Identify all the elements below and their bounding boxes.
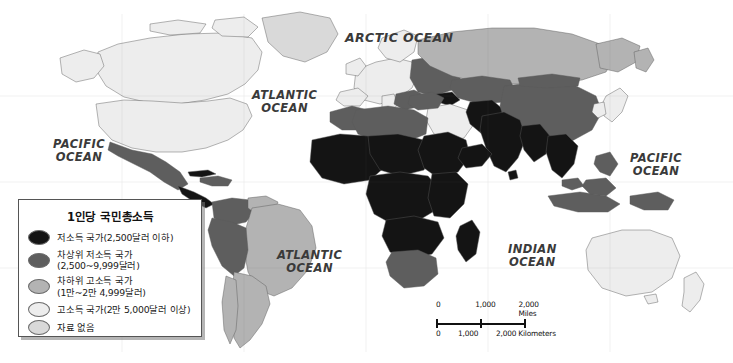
map-legend: 1인당 국민총소득 저소득 국가(2,500달러 이하) 차상위 저소득 국가 … [18, 199, 202, 337]
scalebar-km-zero: 0 [436, 329, 458, 338]
world-income-map: .lnd{stroke:#5a5a5a;stroke-width:.45;} .… [0, 0, 733, 363]
legend-swatch-low-income [28, 230, 50, 245]
legend-item-high-income: 고소득 국가(2만 5,000달러 이상) [28, 302, 193, 317]
scalebar-miles-end: 2,000 Miles [519, 300, 558, 318]
scalebar-miles-zero: 0 [436, 300, 475, 318]
scalebar-kilometers-labels: 0 1,000 2,000 Kilometers [436, 329, 558, 338]
region-sri-lanka [508, 170, 518, 180]
legend-swatch-upper-middle-income [28, 279, 50, 294]
legend-label-no-data: 자료 없음 [57, 322, 95, 334]
map-scalebar: 0 1,000 2,000 Miles 0 1,000 2,000 Kilome… [436, 300, 558, 338]
scalebar-bar [436, 319, 558, 328]
legend-label-low-income: 저소득 국가(2,500달러 이하) [57, 232, 173, 244]
legend-item-upper-middle-income: 차하위 고소득 국가 (1만~2만 4,999달러) [28, 275, 193, 298]
scalebar-km-mid: 1,000 [458, 329, 496, 338]
legend-title: 1인당 국민총소득 [28, 208, 193, 224]
legend-item-no-data: 자료 없음 [28, 320, 193, 335]
scalebar-tick-2 [524, 319, 526, 328]
legend-swatch-no-data [28, 320, 50, 335]
legend-label-lower-middle-income: 차상위 저소득 국가 (2,500~9,999달러) [57, 249, 140, 272]
legend-item-low-income: 저소득 국가(2,500달러 이하) [28, 230, 193, 245]
scalebar-km-end: 2,000 Kilometers [496, 329, 556, 338]
scalebar-tick-1 [480, 319, 482, 328]
scalebar-tick-0 [436, 319, 438, 328]
scalebar-miles-mid: 1,000 [475, 300, 518, 318]
scalebar-miles-labels: 0 1,000 2,000 Miles [436, 300, 558, 318]
legend-label-upper-middle-income: 차하위 고소득 국가 (1만~2만 4,999달러) [57, 275, 146, 298]
legend-swatch-high-income [28, 302, 50, 317]
legend-label-high-income: 고소득 국가(2만 5,000달러 이상) [57, 304, 190, 316]
legend-swatch-lower-middle-income [28, 253, 50, 268]
legend-item-lower-middle-income: 차상위 저소득 국가 (2,500~9,999달러) [28, 249, 193, 272]
